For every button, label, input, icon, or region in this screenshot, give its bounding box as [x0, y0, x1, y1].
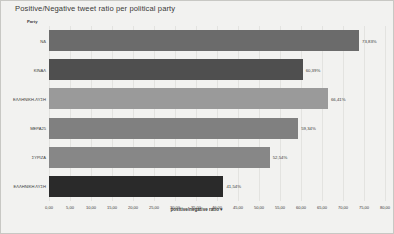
- filter-arrow-icon[interactable]: ▼: [219, 207, 224, 212]
- bar-row: 59,34%: [49, 118, 385, 139]
- gridline: [301, 26, 302, 201]
- gridline: [343, 26, 344, 201]
- category-label: ΣΥΡΙΖΑ: [1, 155, 46, 160]
- bar[interactable]: [49, 176, 223, 197]
- chart-container: Positive/Negative tweet ratio per politi…: [0, 0, 394, 234]
- bar-value-label: 73,83%: [359, 38, 377, 43]
- gridline: [217, 26, 218, 201]
- y-axis-label: Party: [27, 19, 37, 24]
- bar[interactable]: [49, 88, 328, 109]
- bar-row: 52,54%: [49, 147, 385, 168]
- gridline: [175, 26, 176, 201]
- gridline: [112, 26, 113, 201]
- bar[interactable]: [49, 30, 359, 51]
- gridline: [259, 26, 260, 201]
- category-label: ΜΕΡΑ25: [1, 126, 46, 131]
- chart-title: Positive/Negative tweet ratio per politi…: [15, 4, 175, 13]
- bar-row: 60,39%: [49, 59, 385, 80]
- gridline: [133, 26, 134, 201]
- gridline: [322, 26, 323, 201]
- bar-row: 41,54%: [49, 176, 385, 197]
- gridline: [385, 26, 386, 201]
- bar-value-label: 52,54%: [270, 155, 288, 160]
- bar-row: 66,41%: [49, 88, 385, 109]
- bar[interactable]: [49, 59, 303, 80]
- bar[interactable]: [49, 118, 298, 139]
- bar-row: 73,83%: [49, 30, 385, 51]
- category-label: ΝΔ: [1, 38, 46, 43]
- gridline: [280, 26, 281, 201]
- plot-region: Party 73,83%60,39%66,41%59,34%52,54%41,5…: [1, 15, 394, 215]
- bar-value-label: 59,34%: [298, 126, 316, 131]
- plot-area: 73,83%60,39%66,41%59,34%52,54%41,54%: [49, 26, 385, 201]
- gridline: [364, 26, 365, 201]
- category-label: ΕΛΛΗΝΙΚΗ ΛΥΣΗ: [1, 184, 46, 189]
- x-axis-label: positive/negative ratio▼: [1, 207, 393, 212]
- gridline: [91, 26, 92, 201]
- bar-value-label: 60,39%: [303, 67, 321, 72]
- gridline: [70, 26, 71, 201]
- bar[interactable]: [49, 147, 270, 168]
- gridline: [49, 26, 50, 201]
- gridline: [238, 26, 239, 201]
- category-label: ΚΙΝΑΛ: [1, 67, 46, 72]
- bar-value-label: 66,41%: [328, 96, 346, 101]
- bar-value-label: 41,54%: [223, 184, 241, 189]
- gridline: [154, 26, 155, 201]
- gridline: [196, 26, 197, 201]
- x-axis-label-text: positive/negative ratio: [170, 207, 219, 212]
- category-label: ΕΛΛΗΝΙΚΗ-ΛΥΣΗ: [1, 96, 46, 101]
